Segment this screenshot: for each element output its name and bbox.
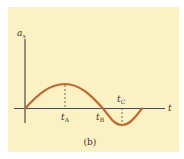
x-axis-label: t	[168, 103, 172, 113]
marker-label-tA: tA	[61, 112, 70, 123]
marker-label-tC: tC	[117, 94, 126, 105]
figure-caption: (b)	[84, 137, 97, 147]
marker-label-tB: tB	[96, 112, 105, 123]
acceleration-graph: ax t tA tB tC (b)	[0, 0, 184, 159]
y-axis-label: ax	[17, 28, 26, 39]
